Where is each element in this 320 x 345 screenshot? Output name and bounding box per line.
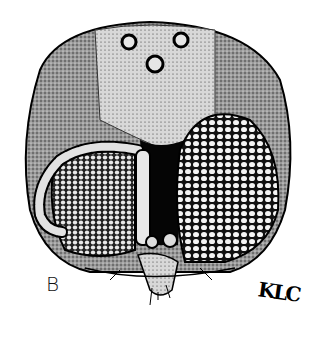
mouthparts bbox=[138, 254, 178, 295]
ocellus-left bbox=[122, 35, 136, 49]
antennal-socket-right bbox=[163, 233, 177, 247]
ocellus-right bbox=[174, 33, 188, 47]
compound-eye-left bbox=[52, 149, 135, 256]
antenna-scape bbox=[136, 150, 150, 245]
panel-label: B bbox=[46, 272, 59, 296]
compound-eye-right bbox=[177, 114, 278, 262]
ocellus-median bbox=[147, 56, 163, 72]
antennal-socket-left bbox=[146, 236, 158, 248]
